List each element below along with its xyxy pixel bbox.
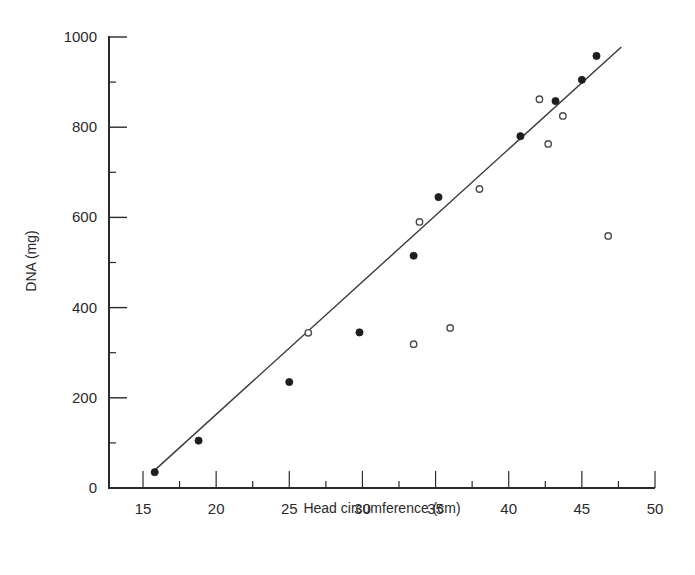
y-tick-label: 600 (72, 208, 97, 225)
filled-data-point (517, 133, 524, 140)
regression-line (154, 47, 621, 471)
y-tick-label: 200 (72, 389, 97, 406)
filled-data-point (578, 76, 585, 83)
y-tick-label: 800 (72, 118, 97, 135)
x-axis-label: Head circumference (cm) (303, 500, 460, 516)
y-tick-label: 0 (89, 479, 97, 496)
regression-line (154, 47, 621, 471)
tick-labels: 020040060080010001520253035404550 (64, 28, 664, 517)
open-data-point (410, 341, 416, 347)
filled-data-point (410, 252, 417, 259)
open-data-point (605, 233, 611, 239)
open-data-point (560, 113, 566, 119)
ticks (109, 37, 655, 488)
y-axis-label: DNA (mg) (23, 230, 39, 291)
open-data-point (305, 330, 311, 336)
scatter-chart: 020040060080010001520253035404550 Head c… (0, 0, 695, 575)
open-data-point (416, 219, 422, 225)
x-tick-label: 25 (281, 500, 298, 517)
x-tick-label: 40 (500, 500, 517, 517)
open-data-point (476, 186, 482, 192)
x-tick-label: 50 (647, 500, 664, 517)
filled-data-point (593, 52, 600, 59)
y-tick-label: 1000 (64, 28, 97, 45)
axes (108, 36, 655, 488)
filled-data-point (552, 97, 559, 104)
open-data-point (447, 325, 453, 331)
x-tick-label: 15 (135, 500, 152, 517)
filled-data-point (356, 329, 363, 336)
filled-data-point (435, 194, 442, 201)
open-data-point (536, 96, 542, 102)
filled-data-point (195, 437, 202, 444)
filled-data-point (151, 469, 158, 476)
x-tick-label: 45 (574, 500, 591, 517)
y-tick-label: 400 (72, 299, 97, 316)
filled-data-point (286, 378, 293, 385)
open-data-point (545, 141, 551, 147)
x-tick-label: 20 (208, 500, 225, 517)
